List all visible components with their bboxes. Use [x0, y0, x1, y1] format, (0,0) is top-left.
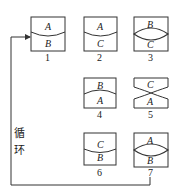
step-2-interface-curve — [84, 32, 117, 36]
step-1-number: 1 — [45, 52, 50, 63]
step-1-top-label: A — [44, 21, 52, 32]
step-3: B C 3 — [134, 17, 168, 63]
step-4-number: 4 — [97, 109, 102, 120]
step-7: A B 7 — [134, 133, 168, 178]
step-1: A B 1 — [31, 17, 65, 63]
step-3-bottom-label: C — [147, 39, 154, 50]
cycle-diagram: 循 环 A B 1 A C 2 B C 3 B A 4 C A 5 — [0, 0, 179, 196]
step-7-bottom-label: B — [147, 155, 153, 166]
step-5-number: 5 — [148, 109, 153, 120]
step-1-interface-curve — [31, 32, 65, 36]
step-1-bottom-label: B — [45, 38, 51, 49]
loop-line — [11, 37, 150, 185]
step-4-top-label: B — [97, 80, 103, 91]
step-6-bottom-label: B — [97, 152, 103, 163]
step-5-bottom-label: A — [146, 96, 154, 107]
step-5-top-label: C — [147, 79, 154, 90]
step-7-top-label: A — [146, 135, 154, 146]
step-6-number: 6 — [97, 167, 102, 178]
step-2-number: 2 — [97, 52, 102, 63]
loop-label-char-1: 循 — [14, 127, 25, 140]
step-4: B A 4 — [84, 78, 116, 120]
step-6-top-label: C — [97, 139, 104, 150]
step-2: A C 2 — [84, 17, 117, 63]
step-6: C B 6 — [84, 133, 116, 178]
step-7-number: 7 — [148, 167, 153, 178]
step-3-number: 3 — [148, 52, 153, 63]
step-2-top-label: A — [96, 21, 104, 32]
step-2-bottom-label: C — [97, 38, 104, 49]
loop-label-char-2: 环 — [14, 144, 25, 157]
step-5: C A 5 — [134, 78, 168, 120]
step-3-top-label: B — [147, 19, 153, 30]
loop-connector — [11, 37, 150, 185]
step-4-bottom-label: A — [96, 95, 104, 106]
